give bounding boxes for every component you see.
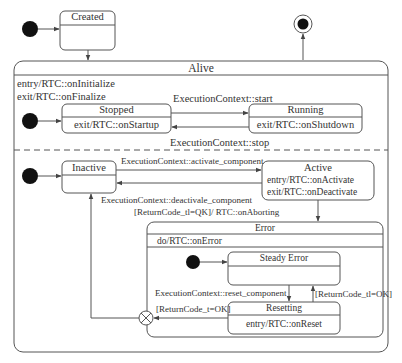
alive-exit-action: exit/RTC::onFinalize bbox=[17, 92, 106, 103]
active-exit-action: exit/RTC::onDeactivate bbox=[267, 188, 357, 198]
state-stopped-name: Stopped bbox=[62, 105, 171, 116]
initial-pseudostate-error bbox=[186, 255, 200, 269]
state-alive-name: Alive bbox=[14, 63, 388, 75]
state-running-name: Running bbox=[249, 105, 362, 116]
initial-pseudostate-inactive bbox=[22, 168, 38, 184]
transition-reset-ok-label: [ReturnCode_t=OK] bbox=[156, 305, 231, 314]
transition-aborting-label: [ReturnCode_tl=QK]/ RTC::onAborting bbox=[134, 208, 279, 217]
state-inactive-name: Inactive bbox=[62, 163, 116, 174]
state-error-action: do/RTC::onError bbox=[157, 237, 222, 247]
state-active-name: Active bbox=[262, 163, 374, 174]
alive-entry-action: entry/RTC::onInitialize bbox=[17, 79, 115, 90]
state-error-name: Error bbox=[147, 224, 383, 234]
active-entry-action: entry/RTC::onActivate bbox=[267, 176, 354, 186]
state-resetting-action: entry/RTC::onReset bbox=[228, 320, 340, 330]
transition-reset-label: ExecutionContext::reset_component bbox=[155, 289, 286, 298]
state-created-name: Created bbox=[60, 12, 115, 23]
transition-deactivate-label: ExecutionContext::deactivale_component bbox=[101, 196, 252, 205]
transition-stop-label: ExecutionContext::stop bbox=[170, 138, 269, 149]
state-resetting-name: Resetting bbox=[228, 304, 340, 314]
state-steady-error-name: Steady Error bbox=[228, 254, 340, 264]
state-stopped-action: exit/RTC::onStartup bbox=[62, 120, 171, 131]
transition-reset-fail-label: [ReturnCode_tl=OK] bbox=[315, 290, 392, 299]
initial-pseudostate-top bbox=[22, 21, 38, 37]
initial-pseudostate-stopped bbox=[22, 113, 38, 129]
transition-start-label: ExecutionContext::start bbox=[173, 94, 273, 105]
state-running-action: exit/RTC::onShutdown bbox=[249, 120, 362, 131]
transition-activate-label: ExecutionContext::activate_component bbox=[121, 157, 263, 166]
